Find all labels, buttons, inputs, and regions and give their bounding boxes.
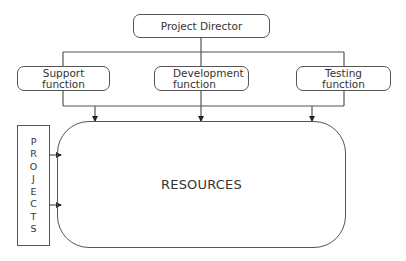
projects-letter: R <box>30 148 37 161</box>
project-director-node: Project Director <box>133 14 270 38</box>
resources-label: RESOURCES <box>161 177 242 192</box>
resources-node: RESOURCES <box>57 121 346 248</box>
project-director-label: Project Director <box>161 21 242 32</box>
projects-letter: J <box>32 173 35 186</box>
projects-letter: S <box>30 223 36 236</box>
development-function-label-line1: Development <box>173 68 244 79</box>
projects-letter: C <box>30 198 37 211</box>
support-function-node: Support function <box>17 66 110 91</box>
testing-function-label-line2: function <box>322 79 365 90</box>
projects-letter: T <box>31 211 37 224</box>
support-function-label-line1: Support <box>42 68 85 79</box>
development-function-label-line2: function <box>173 79 244 90</box>
projects-node: P R O J E C T S <box>17 125 50 246</box>
projects-letter: E <box>30 186 36 199</box>
testing-function-node: Testing function <box>296 66 391 91</box>
projects-letter: P <box>31 136 37 149</box>
support-function-label-line2: function <box>42 79 85 90</box>
projects-letter: O <box>30 161 37 174</box>
testing-function-label-line1: Testing <box>322 68 365 79</box>
development-function-node: Development function <box>154 66 249 91</box>
